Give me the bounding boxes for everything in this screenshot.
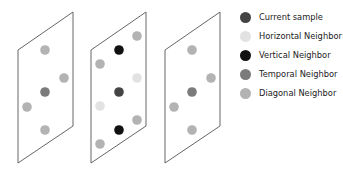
diagonal-neighbor-dot-icon: [240, 88, 251, 99]
legend-label: Temporal Neighbor: [259, 69, 338, 79]
temporal-sample-dot: [40, 87, 50, 97]
diagonal-sample-dot: [95, 139, 105, 149]
vertical-sample-dot: [114, 45, 124, 55]
legend-item-current-sample: Current sample: [240, 10, 323, 24]
legend-item-horizontal-neighbor: Horizontal Neighbor: [240, 29, 342, 43]
current-sample-dot: [114, 87, 124, 97]
horizontal-neighbor-dot-icon: [240, 31, 251, 42]
temporal-sample-dot: [187, 87, 197, 97]
diagonal-sample-dot: [22, 102, 32, 112]
current-sample-dot-icon: [240, 12, 251, 23]
legend-item-temporal-neighbor: Temporal Neighbor: [240, 67, 338, 81]
diagonal-sample-dot: [40, 125, 50, 135]
legend-label: Vertical Neighbor: [259, 50, 331, 60]
vertical-sample-dot: [114, 125, 124, 135]
legend-item-vertical-neighbor: Vertical Neighbor: [240, 48, 331, 62]
legend-label: Diagonal Neighbor: [259, 88, 336, 98]
legend-label: Horizontal Neighbor: [259, 31, 342, 41]
diagonal-sample-dot: [187, 45, 197, 55]
horizontal-sample-dot: [132, 73, 142, 83]
legend-label: Current sample: [259, 12, 323, 22]
legend-item-diagonal-neighbor: Diagonal Neighbor: [240, 86, 336, 100]
frame-next: [165, 12, 220, 163]
diagonal-sample-dot: [40, 45, 50, 55]
diagonal-sample-dot: [187, 125, 197, 135]
diagonal-sample-dot: [132, 115, 142, 125]
diagonal-sample-dot: [169, 102, 179, 112]
frame-previous: [18, 12, 73, 163]
temporal-neighbor-dot-icon: [240, 69, 251, 80]
diagonal-sample-dot: [132, 31, 142, 41]
diagonal-sample-dot: [59, 73, 69, 83]
vertical-neighbor-dot-icon: [240, 50, 251, 61]
frame-current: [91, 12, 146, 163]
horizontal-sample-dot: [95, 101, 105, 111]
diagonal-sample-dot: [206, 73, 216, 83]
diagonal-sample-dot: [95, 59, 105, 69]
